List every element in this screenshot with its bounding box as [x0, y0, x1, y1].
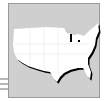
great-lakes: [78, 40, 80, 42]
map-land: [13, 23, 99, 82]
great-lakes: [70, 34, 72, 42]
us-map-icon: [0, 0, 106, 101]
